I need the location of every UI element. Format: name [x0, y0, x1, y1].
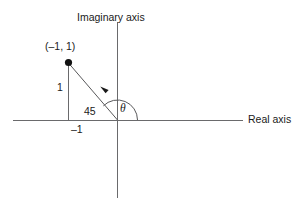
real-leg-length-label: –1 — [71, 124, 83, 135]
imaginary-leg-length-label: 1 — [57, 82, 63, 93]
real-axis-label: Real axis — [248, 114, 291, 125]
theta-arrowhead — [100, 87, 108, 94]
imaginary-axis-label: Imaginary axis — [77, 12, 145, 23]
figure-canvas — [0, 0, 295, 208]
theta-angle-label: θ — [120, 103, 126, 115]
plotted-point — [65, 59, 72, 66]
interior-angle-label: 45 — [84, 106, 96, 117]
point-coordinate-label: (–1, 1) — [45, 41, 75, 52]
complex-plane-figure: Imaginary axis Real axis (–1, 1) 1 –1 45… — [0, 0, 295, 208]
